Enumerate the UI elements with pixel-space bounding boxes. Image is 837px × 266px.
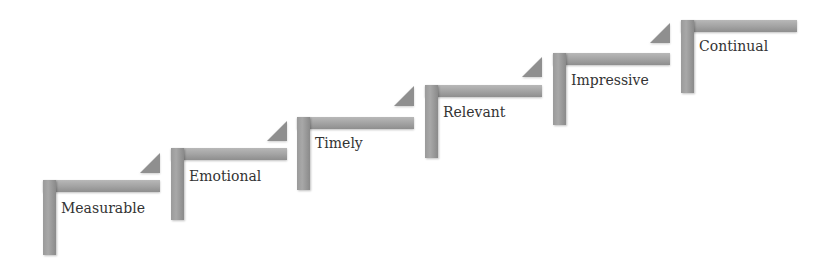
step-tread (553, 53, 670, 65)
step-riser (553, 53, 566, 125)
step-tread (171, 148, 287, 160)
triangle-arrow-icon (650, 23, 670, 43)
step-label: Continual (699, 38, 768, 54)
step-label: Emotional (189, 168, 261, 184)
step-label: Relevant (443, 104, 506, 120)
triangle-arrow-icon (267, 121, 287, 141)
step-label: Impressive (571, 72, 649, 88)
step-riser (425, 85, 438, 158)
triangle-arrow-icon (522, 57, 542, 77)
triangle-arrow-icon (394, 86, 414, 106)
step-riser (171, 148, 184, 220)
step-riser (43, 180, 56, 255)
step-tread (43, 180, 160, 192)
step-tread (425, 85, 542, 97)
staircase-diagram: Measurable Emotional Timely Relevant Imp… (0, 0, 837, 266)
step-riser (681, 20, 694, 93)
step-tread (297, 117, 414, 129)
step-tread (681, 20, 797, 32)
step-riser (297, 117, 310, 190)
step-label: Timely (315, 135, 363, 151)
step-label: Measurable (61, 200, 145, 216)
triangle-arrow-icon (140, 153, 160, 173)
